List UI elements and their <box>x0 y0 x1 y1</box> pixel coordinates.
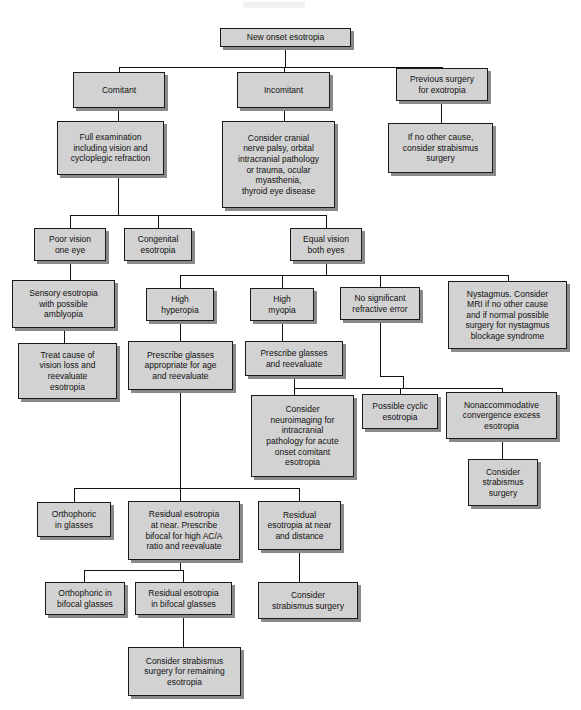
connector-e-bus-residual-near-dist <box>299 488 300 501</box>
connector-e-residual-near-down <box>180 560 181 570</box>
node-high-myopia[interactable]: High myopia <box>250 288 314 321</box>
node-poor-vision-one-eye[interactable]: Poor vision one eye <box>34 228 106 261</box>
node-equal-vision-both-eyes[interactable]: Equal vision both eyes <box>290 228 362 261</box>
connector-e-bus-residual-bifocal <box>183 570 184 582</box>
connector-e-nonaccom-down <box>502 439 503 459</box>
node-new-onset-esotropia[interactable]: New onset esotropia <box>220 28 351 47</box>
flowchart-canvas: New onset esotropiaComitantIncomitantPre… <box>0 0 581 710</box>
connector-e-level6-bus <box>84 570 183 571</box>
connector-e-comitant-down <box>118 108 119 121</box>
connector-e-level2-bus-left <box>70 215 326 216</box>
connector-e-previous-down <box>441 101 442 123</box>
node-residual-esotropia-in-bifocal[interactable]: Residual esotropia in bifocal glasses <box>135 582 232 615</box>
connector-e-equalvision-down <box>326 261 327 275</box>
connector-e-bus-residual-near <box>180 488 181 501</box>
connector-e-myopia-down <box>282 321 283 341</box>
node-nonaccommodative-convergence-excess[interactable]: Nonaccommodative convergence excess esot… <box>446 392 557 439</box>
node-residual-esotropia-at-near[interactable]: Residual esotropia at near. Prescribe bi… <box>128 501 240 560</box>
connector-e-bus-poor-vision <box>70 215 71 228</box>
connector-e-nosig-jog-v <box>403 376 404 388</box>
connector-e-nosig-jog <box>380 376 403 377</box>
page-header-smudge <box>243 2 305 8</box>
node-orthophoric-in-glasses[interactable]: Orthophoric in glasses <box>37 502 111 537</box>
connector-e-level1-bus <box>119 67 443 68</box>
connector-e-bus-myopia <box>282 275 283 288</box>
connector-e-nosig-down <box>380 320 381 376</box>
connector-e-bus-nosig <box>380 275 381 287</box>
connector-e-bus-neuroimaging <box>294 388 295 395</box>
connector-e-bus-ortho-bifocal <box>84 570 85 582</box>
node-nystagmus-consider-mri[interactable]: Nystagmus. Consider MRI if no other caus… <box>448 281 567 349</box>
node-prescribe-glasses-and-reevaluate[interactable]: Prescribe glasses and reevaluate <box>245 341 343 376</box>
node-comitant[interactable]: Comitant <box>73 72 165 108</box>
connector-e-level5-bus <box>74 488 299 489</box>
node-previous-surgery-for-exotropia[interactable]: Previous surgery for exotropia <box>396 68 488 101</box>
node-consider-neuroimaging[interactable]: Consider neuroimaging for intracranial p… <box>251 395 354 477</box>
connector-e-residual-bifocal-down <box>183 615 184 647</box>
node-consider-strabismus-remaining[interactable]: Consider strabismus surgery for remainin… <box>128 647 241 696</box>
node-prescribe-glasses-appropriate[interactable]: Prescribe glasses appropriate for age an… <box>128 341 233 390</box>
node-orthophoric-in-bifocal-glasses[interactable]: Orthophoric in bifocal glasses <box>45 582 125 615</box>
node-consider-strabismus-surgery-right[interactable]: Consider strabismus surgery <box>468 459 538 506</box>
node-incomitant[interactable]: Incomitant <box>237 72 330 108</box>
connector-e-root-down <box>285 47 286 68</box>
connector-e-sensory-down <box>64 328 65 343</box>
node-no-significant-refractive-error[interactable]: No significant refractive error <box>340 287 420 320</box>
connector-e-bus-orthophoric <box>74 488 75 502</box>
node-if-no-other-cause[interactable]: If no other cause, consider strabismus s… <box>388 123 493 173</box>
node-congenital-esotropia[interactable]: Congenital esotropia <box>124 228 192 261</box>
node-full-examination[interactable]: Full examination including vision and cy… <box>57 121 164 175</box>
connector-e-level3-bus <box>180 275 508 276</box>
connector-e-poorvision-down <box>70 261 71 280</box>
node-residual-esotropia-near-distance[interactable]: Residual esotropia at near and distance <box>258 501 341 550</box>
connector-e-residual-neardist-down <box>299 550 300 582</box>
node-consider-strabismus-surgery-mid[interactable]: Consider strabismus surgery <box>258 582 358 619</box>
connector-e-incomitant-down <box>284 108 285 121</box>
connector-e-bus-hyperopia <box>180 275 181 288</box>
node-sensory-esotropia[interactable]: Sensory esotropia with possible amblyopi… <box>12 280 115 328</box>
connector-e-hyperopia-down <box>180 321 181 341</box>
connector-e-bus-equal-vision <box>326 215 327 228</box>
connector-e-prescribeage-down <box>180 390 181 488</box>
node-treat-cause-of-vision-loss[interactable]: Treat cause of vision loss and reevaluat… <box>18 343 117 399</box>
connector-e-bus-congenital <box>158 215 159 228</box>
connector-e-fullexam-down <box>118 175 119 215</box>
node-high-hyperopia[interactable]: High hyperopia <box>146 288 214 321</box>
connector-e-level4-bus <box>294 388 502 389</box>
node-consider-cranial-nerve-palsy[interactable]: Consider cranial nerve palsy, orbital in… <box>222 121 335 208</box>
node-possible-cyclic-esotropia[interactable]: Possible cyclic esotropia <box>362 394 438 429</box>
